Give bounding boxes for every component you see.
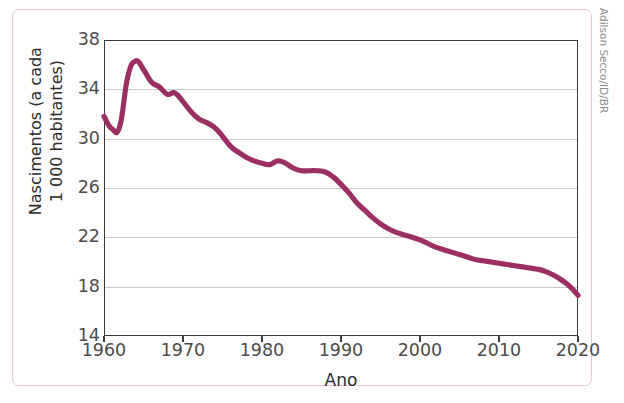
line-chart: 14182226303438 1960197019801990200020102… bbox=[0, 0, 624, 403]
y-axis-title-line2: 1 000 habitantes) bbox=[46, 0, 67, 281]
x-tick-label-2020: 2020 bbox=[538, 342, 618, 360]
y-axis-title-line1: Nascimentos (a cada bbox=[25, 0, 46, 281]
series-layer bbox=[104, 40, 578, 336]
x-tickmark-1960 bbox=[103, 336, 105, 342]
x-tick-label-1960: 1960 bbox=[64, 342, 144, 360]
x-axis-title: Ano bbox=[104, 370, 578, 390]
x-axis-ticks: 1960197019801990200020102020 bbox=[0, 342, 624, 368]
x-tick-label-1990: 1990 bbox=[301, 342, 381, 360]
x-tickmark-1990 bbox=[340, 336, 342, 342]
x-tick-label-1970: 1970 bbox=[143, 342, 223, 360]
x-tickmark-2020 bbox=[577, 336, 579, 342]
x-tickmark-1980 bbox=[261, 336, 263, 342]
y-axis-title: Nascimentos (a cada 1 000 habitantes) bbox=[25, 0, 67, 281]
x-tick-label-1980: 1980 bbox=[222, 342, 302, 360]
x-tick-label-2010: 2010 bbox=[459, 342, 539, 360]
x-tickmark-2000 bbox=[419, 336, 421, 342]
x-tickmark-1970 bbox=[182, 336, 184, 342]
series-line-taxa-de-natalidade bbox=[104, 61, 578, 296]
x-tick-label-2000: 2000 bbox=[380, 342, 460, 360]
x-tickmark-2010 bbox=[498, 336, 500, 342]
